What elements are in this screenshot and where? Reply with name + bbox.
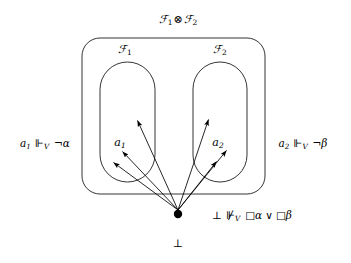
frame-f1-base: ℱ	[118, 43, 127, 56]
frame-f1-sub: 1	[127, 48, 132, 57]
right-forcing-annotation: a2⊩V¬β	[279, 138, 328, 150]
left-forcing-relation-sub: V	[44, 142, 49, 151]
forces-icon-right: ⊩	[293, 137, 302, 149]
not-forces-icon: ⊮	[226, 209, 235, 221]
node-a2-label: a2	[212, 137, 223, 150]
tensor-title-right-sub: 2	[193, 18, 198, 27]
left-forcing-subject-sub: 1	[26, 142, 31, 151]
bottom-forcing-relation-sub: V	[235, 214, 240, 223]
diagram-canvas	[0, 0, 351, 263]
negation-icon: ¬	[54, 137, 63, 149]
node-a1-label: a1	[114, 137, 125, 150]
frame-f2-label: ℱ2	[213, 44, 227, 57]
left-forcing-variable: α	[63, 137, 70, 149]
frame-f2-sub: 2	[222, 48, 227, 57]
right-forcing-variable: β	[321, 137, 327, 149]
box-modal-icon-right: □	[276, 209, 286, 221]
negation-icon-right: ¬	[313, 137, 322, 149]
bottom-node-label: ⊥	[173, 238, 183, 249]
forces-icon: ⊩	[35, 137, 44, 149]
frame-f1-label: ℱ1	[118, 44, 132, 57]
frame-f2-base: ℱ	[213, 43, 222, 56]
node-a2-sub: 2	[219, 141, 224, 150]
right-forcing-relation-sub: V	[302, 142, 307, 151]
right-forcing-subject-sub: 2	[285, 142, 290, 151]
tensor-title-left-base: ℱ	[159, 13, 168, 26]
left-forcing-annotation: a1⊩V¬α	[20, 138, 70, 150]
disjunction-icon: ∨	[265, 209, 273, 221]
bottom-forcing-subject: ⊥	[212, 209, 222, 221]
tensor-title-label: ℱ1⊗ℱ2	[159, 14, 198, 27]
bottom-forcing-annotation: ⊥⊮V□α∨□β	[212, 210, 292, 222]
tensor-operator-icon: ⊗	[172, 13, 183, 26]
bottom-forcing-var-right: β	[286, 209, 292, 221]
root-node-dot	[174, 210, 182, 218]
box-modal-icon-left: □	[245, 209, 255, 221]
figure-background	[0, 0, 351, 263]
bottom-forcing-var-left: α	[255, 209, 262, 221]
tensor-title-right-base: ℱ	[184, 13, 193, 26]
node-a1-sub: 1	[121, 141, 126, 150]
